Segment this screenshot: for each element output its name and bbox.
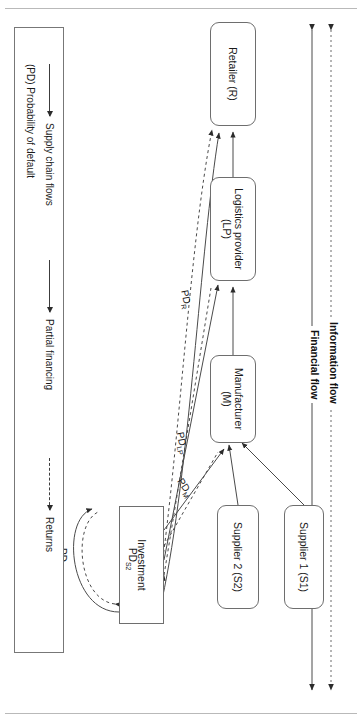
node-manufacturer-label: Manufacturer (M) (221, 368, 245, 430)
legend-item-returns: Returns (44, 458, 55, 552)
node-retailer-label: Retailer (R) (227, 47, 239, 101)
edge-label-pd-s2: PDS2 (125, 548, 138, 570)
legend-dashed-arrow-icon (49, 458, 51, 510)
legend-item-supply-chain-flows-label: Supply chain flows (44, 123, 55, 206)
legend-item-partial-financing-label: Partial financing (44, 319, 55, 390)
figure-canvas: Information flow Financial flow Retailer… (0, 0, 360, 728)
legend-item-probability-of-default-label: (PD) Probability of default (25, 64, 36, 178)
node-logistics-provider[interactable]: Logistics provider (LP) (210, 177, 256, 281)
information-flow-label: Information flow (328, 318, 340, 408)
legend-solid-arrow-icon-2 (49, 260, 51, 312)
legend-item-probability-of-default: (PD) Probability of default (25, 64, 36, 178)
legend-item-partial-financing: Partial financing (44, 260, 55, 390)
legend-item-returns-label: Returns (44, 517, 55, 552)
node-supplier-1[interactable]: Supplier 1 (S1) (284, 505, 324, 609)
node-manufacturer[interactable]: Manufacturer (M) (210, 355, 256, 443)
node-logistics-provider-label: Logistics provider (LP) (221, 188, 245, 270)
legend-item-supply-chain-flows: Supply chain flows (44, 64, 55, 206)
node-retailer[interactable]: Retailer (R) (210, 22, 256, 126)
node-supplier-1-label: Supplier 1 (S1) (298, 522, 310, 592)
node-supplier-2-label: Supplier 2 (S2) (232, 522, 244, 592)
node-supplier-2[interactable]: Supplier 2 (S2) (217, 505, 259, 609)
legend-solid-arrow-icon (49, 64, 51, 116)
legend-box: Supply chain flows (PD) Probability of d… (14, 27, 64, 653)
financial-flow-label: Financial flow (309, 326, 321, 403)
